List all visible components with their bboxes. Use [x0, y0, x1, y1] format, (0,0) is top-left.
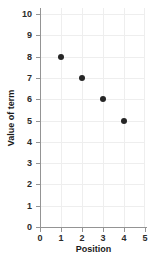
data-point — [58, 54, 64, 60]
y-tick-mark — [36, 206, 40, 207]
y-axis-title: Value of term — [6, 68, 16, 168]
x-tick-mark — [103, 228, 104, 232]
y-tick-mark — [36, 57, 40, 58]
y-tick-mark — [36, 35, 40, 36]
gridline-horizontal — [40, 184, 145, 185]
x-tick-mark — [61, 228, 62, 232]
data-point — [100, 96, 106, 102]
y-tick-label: 8 — [6, 53, 32, 62]
gridline-horizontal — [40, 206, 145, 207]
x-tick-label: 3 — [95, 234, 111, 243]
x-tick-label: 4 — [116, 234, 132, 243]
gridline-vertical — [61, 8, 62, 227]
x-axis-title: Position — [40, 244, 147, 254]
y-tick-mark — [36, 78, 40, 79]
x-tick-mark — [124, 228, 125, 232]
gridline-vertical — [82, 8, 83, 227]
x-tick-mark — [145, 228, 146, 232]
data-point — [79, 75, 85, 81]
x-axis-line — [40, 227, 147, 228]
y-tick-label: 0 — [6, 223, 32, 232]
y-tick-mark — [36, 99, 40, 100]
scatter-chart: 012345678910 012345 Value of term Positi… — [0, 0, 149, 255]
y-tick-mark — [36, 142, 40, 143]
y-tick-mark — [36, 121, 40, 122]
y-tick-label: 1 — [6, 202, 32, 211]
gridline-horizontal — [40, 121, 145, 122]
y-tick-mark — [36, 184, 40, 185]
y-tick-mark — [36, 163, 40, 164]
y-tick-label: 2 — [6, 180, 32, 189]
gridline-horizontal — [40, 142, 145, 143]
x-tick-label: 5 — [137, 234, 149, 243]
x-tick-label: 0 — [32, 234, 48, 243]
gridline-horizontal — [40, 163, 145, 164]
x-tick-label: 1 — [53, 234, 69, 243]
y-tick-label: 10 — [6, 10, 32, 19]
plot-area — [40, 14, 145, 227]
y-tick-mark — [36, 14, 40, 15]
gridline-horizontal — [40, 78, 145, 79]
y-tick-label: 9 — [6, 31, 32, 40]
y-axis-line — [40, 8, 41, 228]
x-tick-mark — [40, 228, 41, 232]
x-tick-label: 2 — [74, 234, 90, 243]
gridline-horizontal — [40, 14, 145, 15]
gridline-horizontal — [40, 35, 145, 36]
gridline-horizontal — [40, 99, 145, 100]
gridline-vertical — [144, 8, 145, 227]
gridline-vertical — [103, 8, 104, 227]
x-tick-mark — [82, 228, 83, 232]
gridline-horizontal — [40, 57, 145, 58]
data-point — [121, 118, 127, 124]
